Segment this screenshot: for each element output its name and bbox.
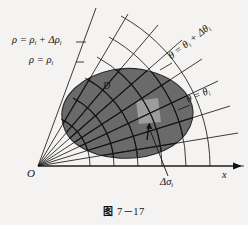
caption-cjk: 图	[103, 206, 114, 217]
label-rho-outer-sub2: i	[60, 39, 62, 46]
label-rho-inner-sub: i	[51, 59, 53, 66]
label-x-axis: x	[222, 170, 227, 181]
x-axis	[38, 162, 242, 169]
caption-number: 7－17	[117, 206, 145, 217]
label-rho-inner: ρ = ρi	[29, 55, 53, 66]
theta-outer-leader	[160, 63, 172, 70]
label-origin: O	[27, 168, 35, 179]
label-rho-outer-text: ρ = ρ	[12, 34, 34, 45]
label-delta-sigma: Δσi	[160, 177, 173, 188]
label-delta-sigma-sub: i	[171, 181, 173, 188]
label-rho-outer: ρ = ρi + Δρi	[12, 35, 62, 46]
label-region-d: D	[103, 81, 110, 91]
x-axis-arrowhead	[233, 162, 242, 169]
figure-caption: 图 7－17	[0, 203, 248, 218]
figure-container: ρ = ρi + Δρi ρ = ρi θ = θi + Δθi θ = θi …	[0, 0, 248, 225]
label-delta-sigma-text: Δσ	[160, 176, 171, 187]
label-rho-outer-plus: + Δρ	[36, 34, 60, 45]
label-rho-inner-text: ρ = ρ	[29, 54, 51, 65]
